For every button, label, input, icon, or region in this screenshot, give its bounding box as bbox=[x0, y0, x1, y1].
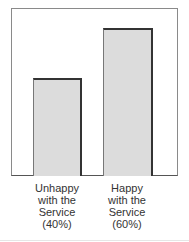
label-line: (40%) bbox=[22, 218, 92, 230]
label-line: Happy bbox=[92, 182, 162, 194]
label-line: Unhappy bbox=[22, 182, 92, 194]
label-line: with the bbox=[92, 194, 162, 206]
category-label-happy: Happy with the Service (60%) bbox=[92, 182, 162, 230]
label-line: Service bbox=[22, 206, 92, 218]
label-line: with the bbox=[22, 194, 92, 206]
label-line: Service bbox=[92, 206, 162, 218]
bar-happy bbox=[103, 28, 153, 176]
label-line: (60%) bbox=[92, 218, 162, 230]
category-label-unhappy: Unhappy with the Service (40%) bbox=[22, 182, 92, 230]
bar-unhappy bbox=[33, 78, 82, 176]
divider bbox=[0, 240, 189, 241]
